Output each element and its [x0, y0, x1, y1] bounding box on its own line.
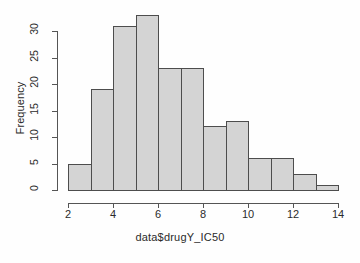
histogram-bar [91, 89, 115, 191]
histogram-bar [136, 15, 160, 191]
histogram-bar [68, 164, 92, 192]
histogram-bar [293, 174, 317, 191]
histogram-bar [181, 68, 205, 191]
histogram-bar [113, 26, 137, 191]
histogram-bar [248, 158, 272, 191]
histogram-bar [316, 185, 340, 191]
histogram-plot: Frequency 051015202530 2468101214 data$d… [0, 0, 360, 263]
histogram-bar [226, 121, 250, 191]
histogram-bars [0, 0, 360, 263]
histogram-bar [158, 68, 182, 191]
histogram-bar [271, 158, 295, 191]
histogram-bar [203, 126, 227, 191]
x-axis-label: data$drugY_IC50 [0, 231, 360, 243]
